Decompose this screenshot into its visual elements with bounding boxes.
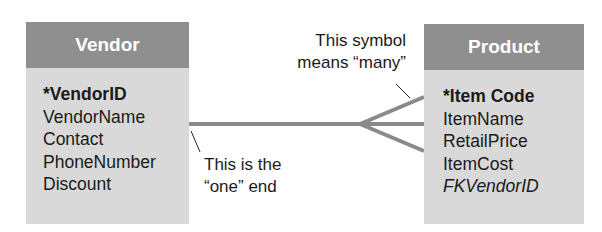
annotation-line: “one” end — [204, 176, 281, 198]
field: VendorName — [43, 106, 189, 129]
entity-product: Product *Item Code ItemName RetailPrice … — [424, 24, 584, 224]
field: PhoneNumber — [43, 151, 189, 174]
entity-title: Product — [424, 24, 584, 70]
field-list: *Item Code ItemName RetailPrice ItemCost… — [424, 70, 584, 198]
primary-key-field: *VendorID — [43, 83, 189, 106]
foreign-key-field: FKVendorID — [443, 175, 584, 198]
annotation-one: This is the “one” end — [204, 154, 281, 198]
annotation-line: means “many” — [297, 52, 406, 74]
field: Discount — [43, 173, 189, 196]
annotation-many: This symbol means “many” — [297, 30, 406, 74]
field: ItemName — [443, 108, 584, 131]
entity-title: Vendor — [26, 22, 189, 68]
field: ItemCost — [443, 153, 584, 176]
field-list: *VendorID VendorName Contact PhoneNumber… — [26, 68, 189, 196]
field: Contact — [43, 128, 189, 151]
entity-vendor: Vendor *VendorID VendorName Contact Phon… — [26, 22, 189, 224]
annotation-line: This is the — [204, 154, 281, 176]
field: RetailPrice — [443, 130, 584, 153]
primary-key-field: *Item Code — [443, 85, 584, 108]
annotation-line: This symbol — [297, 30, 406, 52]
